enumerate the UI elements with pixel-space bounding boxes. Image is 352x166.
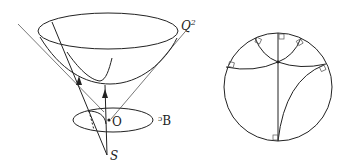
right-angle-marker [273, 135, 278, 140]
cone-left-line [18, 24, 104, 112]
hyperboloid-figure: Q2 O ᵓB S [18, 13, 196, 163]
disk-label: ᵓB [158, 114, 171, 128]
disk-geodesic [88, 111, 106, 124]
intersection-point [277, 61, 280, 64]
right-geodesic-arc [278, 62, 326, 67]
projection-point-label: S [110, 149, 118, 163]
hyperboloid-rim [38, 13, 178, 49]
origin-label: O [112, 115, 122, 129]
projection-ray-left [52, 22, 107, 155]
origin-point [107, 118, 110, 121]
upper-left-geodesic-arc [255, 38, 278, 62]
cone-right-line [111, 26, 190, 119]
surface-geodesic [67, 52, 112, 81]
lower-right-geodesic-arc [278, 65, 324, 141]
upper-right-geodesic-arc [278, 38, 301, 62]
poincare-disk-figure [224, 33, 332, 141]
surface-label: Q2 [181, 18, 196, 33]
arrow-up-center-icon [102, 89, 108, 98]
right-angle-marker [279, 34, 284, 39]
diagram-canvas: Q2 O ᵓB S [0, 0, 352, 166]
